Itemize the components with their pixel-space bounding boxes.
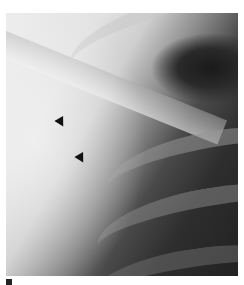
xray-image — [6, 13, 238, 276]
panel-label-mark — [6, 279, 12, 285]
soft-tissue-shade — [6, 13, 238, 276]
